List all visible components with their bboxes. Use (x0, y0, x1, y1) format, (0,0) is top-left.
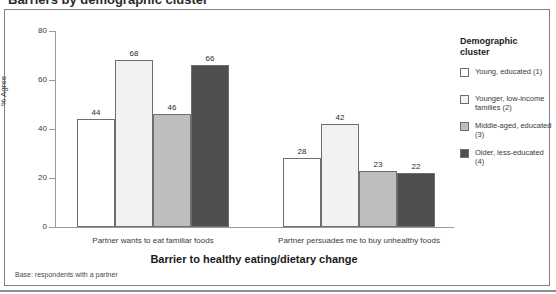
bar (77, 119, 115, 227)
bar-value-label: 66 (191, 54, 229, 63)
y-axis-tick-label: 60 (5, 76, 47, 84)
bar-value-label: 28 (283, 147, 321, 156)
bottom-divider (0, 290, 556, 292)
bar (397, 173, 435, 227)
legend-items: Young, educated (1)Younger, low-income f… (460, 67, 552, 167)
legend-item-label: Older, less-educated (4) (475, 148, 552, 166)
chart-frame: % Agree 020406080 4468466628422322 Partn… (4, 9, 550, 286)
legend-swatch-icon (460, 95, 469, 104)
legend-item[interactable]: Young, educated (1) (460, 67, 552, 86)
legend-swatch-icon (460, 149, 469, 158)
y-axis-tick (49, 227, 55, 228)
plot-area (55, 31, 453, 227)
bar-value-label: 44 (77, 108, 115, 117)
chart-screenshot: Barriers by demographic cluster % Agree … (0, 0, 556, 294)
legend-item-label: Middle-aged, educated (3) (475, 121, 552, 139)
x-axis-line (55, 227, 454, 228)
legend-title-line1: Demographic (460, 36, 518, 46)
legend-item[interactable]: Younger, low-income families (2) (460, 94, 552, 113)
bar (359, 171, 397, 227)
bar (321, 124, 359, 227)
legend-item[interactable]: Middle-aged, educated (3) (460, 121, 552, 140)
y-axis-tick-label: 20 (5, 174, 47, 182)
bar-value-label: 42 (321, 113, 359, 122)
bar (283, 158, 321, 227)
base-note: Base: respondents with a partner (15, 271, 118, 278)
cut-off-title: Barriers by demographic cluster (0, 0, 556, 7)
bar-value-label: 22 (397, 162, 435, 171)
bar (153, 114, 191, 227)
legend: Demographic cluster Young, educated (1)Y… (460, 36, 552, 175)
bar-value-label: 23 (359, 160, 397, 169)
bar (191, 65, 229, 227)
legend-title-line2: cluster (460, 47, 490, 57)
legend-title: Demographic cluster (460, 36, 548, 58)
legend-item-label: Younger, low-income families (2) (475, 94, 552, 112)
legend-item-label: Young, educated (1) (475, 67, 552, 76)
bar-value-label: 68 (115, 49, 153, 58)
category-label: Partner persuades me to buy unhealthy fo… (253, 236, 465, 245)
legend-item[interactable]: Older, less-educated (4) (460, 148, 552, 167)
y-axis-tick-label: 80 (5, 27, 47, 35)
x-axis-title: Barrier to healthy eating/dietary change (55, 253, 453, 265)
category-label: Partner wants to eat familiar foods (47, 236, 259, 245)
bar-value-label: 46 (153, 103, 191, 112)
y-axis-tick-label: 40 (5, 125, 47, 133)
legend-swatch-icon (460, 122, 469, 131)
legend-swatch-icon (460, 68, 469, 77)
y-axis-tick-label: 0 (5, 223, 47, 231)
bar (115, 60, 153, 227)
cut-off-title-text: Barriers by demographic cluster (8, 0, 208, 6)
